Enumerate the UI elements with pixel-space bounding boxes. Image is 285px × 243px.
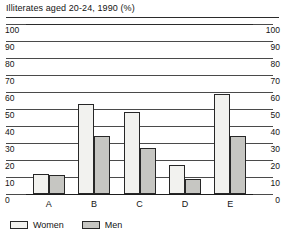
y-tick-label-left-40: 40 xyxy=(5,128,14,137)
y-tick-label-right-30: 30 xyxy=(271,145,280,154)
tick-stub-right-0 xyxy=(253,194,273,195)
y-tick-label-left-80: 80 xyxy=(5,60,14,69)
legend-swatch-women-icon xyxy=(10,221,28,229)
y-tick-label-right-90: 90 xyxy=(271,43,280,52)
chart-title: Illiterates aged 20-24, 1990 (%) xyxy=(6,3,135,14)
bar-group-B xyxy=(78,24,110,194)
plot-area xyxy=(26,24,253,194)
x-tick-label-B: B xyxy=(78,198,110,210)
y-tick-label-right-100: 100 xyxy=(266,26,280,35)
x-tick-label-E: E xyxy=(214,198,246,210)
bar-B-women xyxy=(78,104,94,194)
x-tick-label-C: C xyxy=(124,198,156,210)
bar-A-men xyxy=(49,175,65,194)
y-tick-label-right-70: 70 xyxy=(271,77,280,86)
legend-label-women: Women xyxy=(33,220,64,230)
y-tick-label-right-80: 80 xyxy=(271,60,280,69)
y-tick-label-left-60: 60 xyxy=(5,94,14,103)
y-tick-label-left-30: 30 xyxy=(5,145,14,154)
chart-legend: Women Men xyxy=(10,220,122,230)
y-tick-label-right-60: 60 xyxy=(271,94,280,103)
legend-swatch-men-icon xyxy=(82,221,100,229)
bar-E-women xyxy=(214,94,230,194)
chart-container: Illiterates aged 20-24, 1990 (%) ABCDE W… xyxy=(0,0,285,243)
bar-group-A xyxy=(33,24,65,194)
y-tick-label-right-20: 20 xyxy=(271,162,280,171)
y-tick-label-right-40: 40 xyxy=(271,128,280,137)
y-tick-label-right-50: 50 xyxy=(271,111,280,120)
bar-group-C xyxy=(124,24,156,194)
y-tick-label-left-90: 90 xyxy=(5,43,14,52)
legend-item-men: Men xyxy=(82,220,123,230)
y-tick-label-left-50: 50 xyxy=(5,111,14,120)
bar-D-men xyxy=(185,179,201,194)
bar-A-women xyxy=(33,174,49,194)
y-tick-label-right-10: 10 xyxy=(271,179,280,188)
bar-group-E xyxy=(214,24,246,194)
y-tick-label-left-100: 100 xyxy=(5,26,19,35)
title-divider xyxy=(6,17,279,18)
legend-item-women: Women xyxy=(10,220,64,230)
x-axis-labels: ABCDE xyxy=(26,198,253,212)
bar-B-men xyxy=(94,136,110,194)
y-tick-label-left-10: 10 xyxy=(5,179,14,188)
bar-C-men xyxy=(140,148,156,194)
y-tick-label-left-70: 70 xyxy=(5,77,14,86)
gridline-0 xyxy=(26,194,253,195)
y-tick-label-left-20: 20 xyxy=(5,162,14,171)
x-tick-label-A: A xyxy=(33,198,65,210)
bar-C-women xyxy=(124,112,140,194)
bar-D-women xyxy=(169,165,185,194)
y-tick-label-left-0: 0 xyxy=(5,196,10,205)
y-tick-label-right-0: 0 xyxy=(275,196,280,205)
x-tick-label-D: D xyxy=(169,198,201,210)
legend-label-men: Men xyxy=(105,220,123,230)
bar-E-men xyxy=(230,136,246,194)
bar-group-D xyxy=(169,24,201,194)
